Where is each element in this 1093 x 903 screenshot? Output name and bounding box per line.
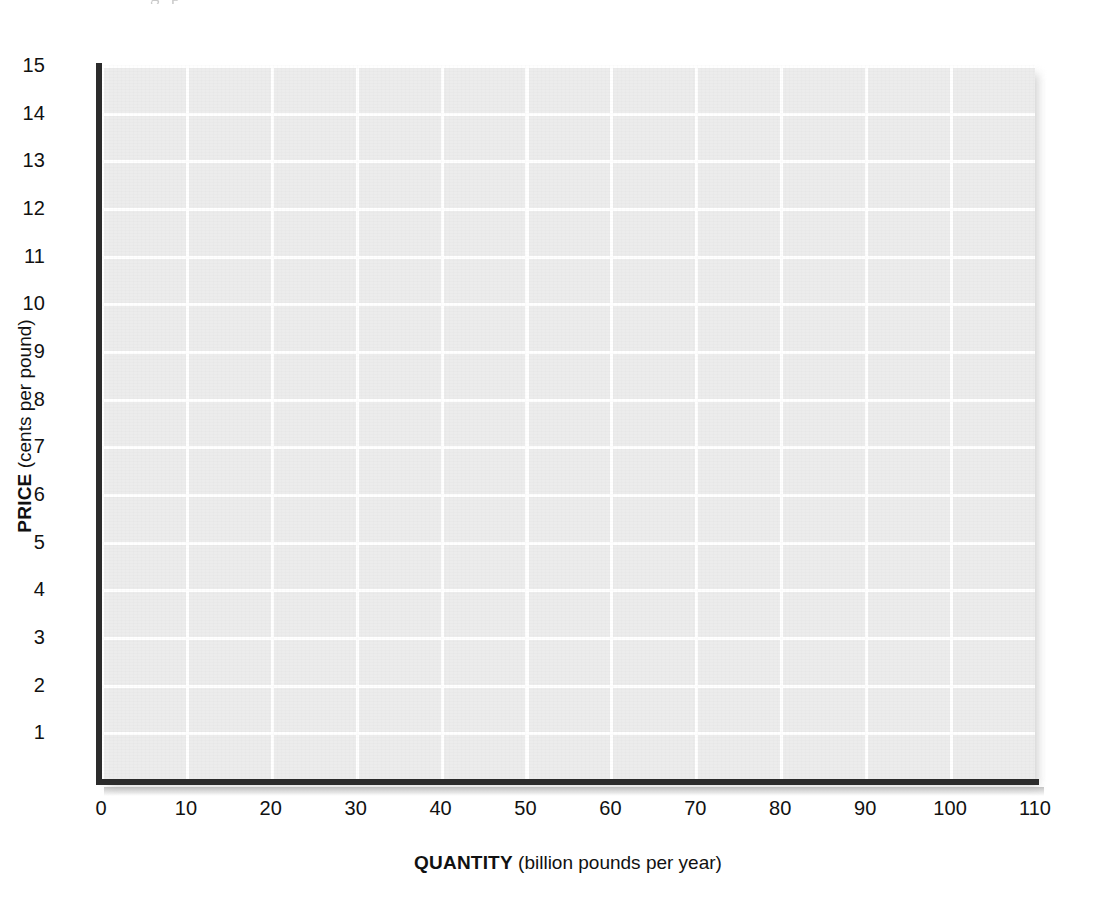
x-axis-tick-label: 60 [575, 798, 645, 818]
x-axis-drop-shadow [104, 787, 1044, 796]
x-axis-tick-label: 30 [321, 798, 391, 818]
x-axis-tick-label: 100 [915, 798, 985, 818]
x-axis-tick-label: 0 [66, 798, 136, 818]
y-axis-title: PRICE (cents per pound) [14, 76, 36, 776]
x-axis-title-unit: (billion pounds per year) [518, 852, 722, 873]
plot-area[interactable] [101, 65, 1035, 780]
y-axis-title-unit: (cents per pound) [14, 319, 35, 468]
x-axis-tick-label: 10 [151, 798, 221, 818]
x-axis-tick-label: 80 [745, 798, 815, 818]
x-axis-tick-label: 110 [1000, 798, 1070, 818]
x-axis-tick-label: 50 [491, 798, 561, 818]
y-axis-line [96, 63, 102, 785]
horizontal-gridlines [101, 65, 1035, 780]
y-axis-title-bold: PRICE [14, 474, 35, 533]
x-axis-title-bold: QUANTITY [414, 852, 513, 873]
x-axis-tick-label: 90 [830, 798, 900, 818]
x-axis-tick-label: 20 [236, 798, 306, 818]
x-axis-tick-label: 40 [406, 798, 476, 818]
x-axis-title: QUANTITY (billion pounds per year) [101, 852, 1035, 874]
y-axis-tick-label: 15 [5, 55, 45, 75]
x-axis-line [96, 779, 1039, 785]
blank-graph-figure: 151413121110987654321 010203040506070809… [0, 0, 1093, 903]
x-axis-tick-label: 70 [660, 798, 730, 818]
